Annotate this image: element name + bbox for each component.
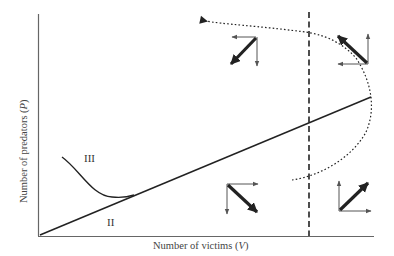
y-axis-label-main: Number of predators ( [18,109,30,203]
x-axis-label-main: Number of victims ( [153,240,239,252]
predator-isocline-line [40,97,371,235]
vector-group-upper-right [338,34,368,64]
vector-group-lower-left [227,184,258,214]
region-label-ii: II [107,216,115,228]
x-axis-label: Number of victims (V) [153,240,249,252]
phase-plane-diagram: III II Number of victims (V) Number of p… [0,0,394,256]
y-axis-label: Number of predators (P) [18,99,30,203]
thick-arrow-down-right-icon [228,185,257,212]
thick-arrow-down-left-icon [231,38,256,64]
region-label-iii: III [84,152,95,164]
thick-arrow-up-right-icon [340,183,368,210]
vector-group-upper-left [231,37,257,66]
thick-arrow-up-left-icon [338,36,367,63]
x-axis-label-end: ) [245,240,249,252]
y-axis-label-end: ) [18,99,30,103]
curve-iii [62,157,134,197]
vector-group-lower-right [339,181,371,211]
